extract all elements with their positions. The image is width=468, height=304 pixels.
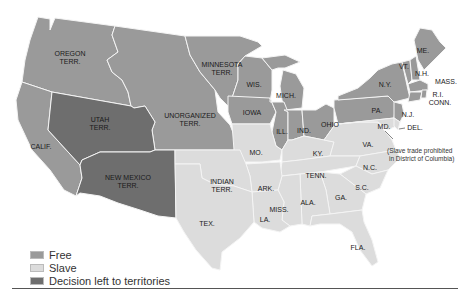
label-ky: KY.	[313, 150, 323, 157]
label-md: MD.	[378, 123, 391, 130]
label-sc: S.C.	[355, 184, 369, 191]
legend-label-slave: Slave	[49, 262, 77, 274]
label-pa: PA.	[372, 107, 383, 114]
label-unorganized-1: UNORGANIZED	[164, 112, 216, 119]
decision-swatch	[30, 277, 44, 285]
label-conn: CONN.	[429, 99, 452, 106]
label-minnesota-2: TERR.	[212, 69, 233, 76]
dc-annotation-2: in District of Columbia)	[389, 155, 454, 163]
label-oregon-1: OREGON	[54, 50, 85, 57]
label-utah-2: TERR.	[90, 124, 111, 131]
label-minnesota-1: MINNESOTA	[201, 61, 242, 68]
label-la: LA.	[260, 216, 271, 223]
label-ga: GA.	[335, 194, 347, 201]
label-tenn: TENN.	[306, 172, 327, 179]
label-newmexico-1: NEW MEXICO	[105, 174, 151, 181]
del-leader-line	[399, 128, 405, 129]
label-oregon-2: TERR.	[60, 58, 81, 65]
legend-item-free: Free	[30, 248, 170, 261]
free-swatch	[30, 251, 44, 259]
label-wis: WIS.	[246, 81, 261, 88]
label-mass: MASS.	[435, 78, 457, 85]
label-ala: ALA.	[300, 199, 315, 206]
label-calif: CALIF.	[30, 143, 51, 150]
slave-swatch	[30, 264, 44, 272]
bottom-rule	[12, 288, 458, 289]
legend-label-decision: Decision left to territories	[49, 275, 170, 287]
region-rhode-island	[421, 90, 427, 98]
label-indian-2: TERR.	[212, 186, 233, 193]
region-florida	[310, 210, 378, 266]
label-ind: IND.	[297, 127, 311, 134]
label-vt: VT.	[399, 63, 409, 70]
label-del: DEL.	[407, 124, 423, 131]
label-iowa: IOWA	[243, 109, 262, 116]
dc-annotation-1: (Slave trade prohibited	[387, 147, 453, 155]
label-ohio: OHIO	[321, 121, 339, 128]
label-ill: ILL.	[276, 128, 288, 135]
label-tex: TEX.	[199, 220, 215, 227]
label-nh: N.H.	[415, 70, 429, 77]
map-legend: Free Slave Decision left to territories	[30, 248, 170, 287]
label-miss: MISS.	[269, 206, 288, 213]
legend-label-free: Free	[49, 249, 72, 261]
label-mich: MICH.	[276, 92, 296, 99]
legend-item-slave: Slave	[30, 261, 170, 274]
region-connecticut	[408, 92, 422, 102]
label-ri: R.I.	[433, 91, 444, 98]
label-unorganized-2: TERR.	[180, 120, 201, 127]
label-newmexico-2: TERR.	[118, 182, 139, 189]
label-utah-1: UTAH	[91, 116, 110, 123]
label-indian-1: INDIAN	[210, 178, 234, 185]
label-ny: N.Y.	[379, 81, 392, 88]
label-nc: N.C.	[363, 164, 377, 171]
label-me: ME.	[417, 47, 430, 54]
legend-item-decision: Decision left to territories	[30, 274, 170, 287]
label-mo: MO.	[249, 149, 262, 156]
label-nj: N.J.	[402, 111, 415, 118]
label-ark: ARK.	[258, 185, 274, 192]
label-fla: FLA.	[351, 244, 366, 251]
label-va: VA.	[363, 141, 374, 148]
